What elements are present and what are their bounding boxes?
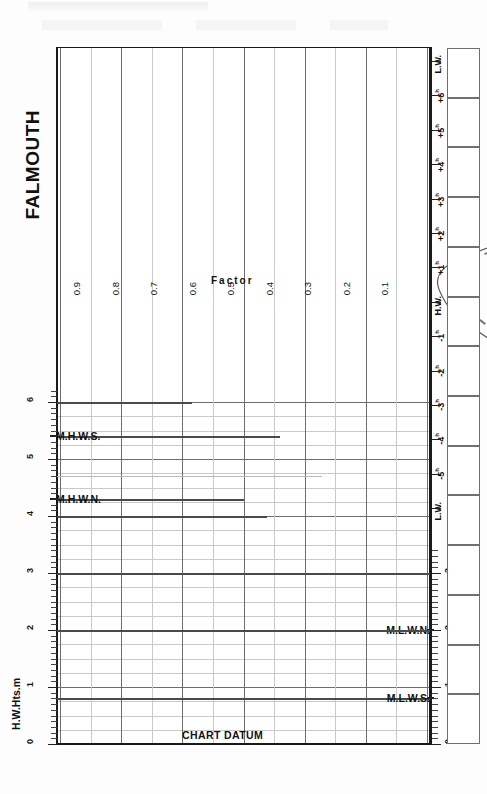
left-axis-tick-minor	[51, 693, 57, 694]
level-span-line	[57, 630, 430, 632]
left-axis-tick-minor	[51, 602, 57, 603]
time-entry-box[interactable]	[447, 297, 480, 347]
left-axis-tick-major	[48, 573, 57, 574]
hour-axis-label: H.W.	[434, 296, 443, 316]
left-axis-tick-minor	[51, 527, 57, 528]
right-axis-tick-minor	[432, 596, 438, 597]
left-axis-tick-minor	[51, 550, 57, 551]
left-axis-tick-minor	[51, 704, 57, 705]
left-axis-tick-label: 5	[26, 454, 35, 459]
left-axis-tick-minor	[51, 676, 57, 677]
right-axis-tick-minor	[432, 607, 438, 608]
right-axis-tick-minor	[432, 556, 438, 557]
left-axis-tick-major	[48, 744, 57, 745]
right-axis-tick-major	[432, 687, 441, 688]
time-entry-box[interactable]	[447, 346, 480, 396]
left-axis-tick-label: 4	[26, 511, 35, 516]
time-entry-box[interactable]	[447, 247, 480, 297]
hour-axis-label: L.W.	[434, 55, 443, 74]
left-axis-tick-label: 1	[26, 682, 35, 687]
right-axis-tick-minor	[432, 676, 438, 677]
left-axis-tick-minor	[51, 579, 57, 580]
hour-axis-tick	[432, 95, 441, 96]
left-axis-tick-label: 0	[26, 739, 35, 744]
time-entry-box[interactable]	[447, 48, 480, 98]
time-entry-box[interactable]	[447, 495, 480, 545]
factor-tick-label: 0.7	[149, 282, 159, 295]
left-axis-tick-major	[48, 516, 57, 517]
right-axis-tick-minor	[432, 641, 438, 642]
left-axis-tick-minor	[51, 408, 57, 409]
level-marker-dash	[50, 498, 57, 500]
factor-tick-label: 0.6	[188, 282, 198, 295]
left-axis-tick-minor	[51, 539, 57, 540]
left-axis-tick-minor	[51, 636, 57, 637]
level-span-line-faint	[57, 476, 322, 477]
scan-artifact-ghost-1	[42, 20, 162, 30]
right-axis-tick-minor	[432, 710, 438, 711]
left-axis-tick-minor	[51, 733, 57, 734]
left-axis-tick-major	[48, 687, 57, 688]
right-axis-tick-minor	[432, 738, 438, 739]
time-entry-box[interactable]	[447, 396, 480, 446]
left-axis-tick-minor	[51, 664, 57, 665]
left-axis-tick-label: 3	[26, 568, 35, 573]
left-axis-tick-minor	[51, 482, 57, 483]
time-entry-box[interactable]	[447, 595, 480, 645]
time-entry-box[interactable]	[447, 694, 480, 744]
scan-artifact-ghost-2	[196, 20, 296, 30]
left-axis-tick-minor	[51, 510, 57, 511]
left-axis-tick-label: 2	[26, 625, 35, 630]
level-label: M.L.W.S.	[387, 692, 430, 704]
level-label: M.H.W.N.	[56, 493, 101, 505]
chart-datum-label: CHART DATUM	[182, 729, 263, 741]
factor-tick-label: 0.2	[342, 282, 352, 295]
time-entry-box[interactable]	[447, 446, 480, 496]
left-axis-tick-minor	[51, 716, 57, 717]
time-entry-box[interactable]	[447, 545, 480, 595]
time-entry-box[interactable]	[447, 197, 480, 247]
left-axis-tick-minor	[51, 624, 57, 625]
factor-tick-label: 0.1	[380, 282, 390, 295]
left-axis-tick-major	[48, 630, 57, 631]
right-axis-tick-minor	[432, 727, 438, 728]
level-marker-dash	[50, 435, 57, 437]
right-axis-tick-minor	[432, 721, 438, 722]
left-axis-tick-minor	[51, 727, 57, 728]
left-axis-tick-minor	[51, 721, 57, 722]
right-axis-tick-minor	[432, 670, 438, 671]
left-axis-tick-minor	[51, 396, 57, 397]
left-axis-tick-minor	[51, 562, 57, 563]
factor-tick-label: 0.4	[265, 282, 275, 295]
left-axis-tick-minor	[51, 613, 57, 614]
right-axis-tick-minor	[432, 624, 438, 625]
left-axis-tick-minor	[51, 584, 57, 585]
hour-axis-tick	[432, 61, 441, 62]
left-axis-tick-minor	[51, 619, 57, 620]
factor-tick-label: 0.9	[72, 282, 82, 295]
time-entry-box[interactable]	[447, 98, 480, 148]
hour-axis-tick	[432, 164, 441, 165]
left-axis-tick-label: 6	[26, 397, 35, 402]
hour-axis-label: L.W.	[434, 502, 443, 521]
right-axis-tick-minor	[432, 567, 438, 568]
left-axis-tick-minor	[51, 647, 57, 648]
right-axis-tick-minor	[432, 659, 438, 660]
factor-axis-label: Factor	[211, 275, 254, 286]
time-entry-box[interactable]	[447, 645, 480, 695]
right-axis-tick-minor	[432, 602, 438, 603]
right-axis-tick-minor	[432, 590, 438, 591]
left-axis-tick-minor	[51, 670, 57, 671]
time-entry-box[interactable]	[447, 147, 480, 197]
level-span-line	[57, 573, 430, 575]
left-axis-tick-minor	[51, 641, 57, 642]
right-axis-tick-minor	[432, 693, 438, 694]
left-axis-tick-minor	[51, 607, 57, 608]
factor-tick-label: 0.3	[303, 282, 313, 295]
right-axis-tick-major	[432, 744, 441, 745]
right-axis-tick-minor	[432, 579, 438, 580]
left-axis-tick-minor	[51, 425, 57, 426]
right-axis-tick-minor	[432, 681, 438, 682]
level-marker-dash	[427, 697, 434, 699]
left-axis-tick-minor	[51, 590, 57, 591]
